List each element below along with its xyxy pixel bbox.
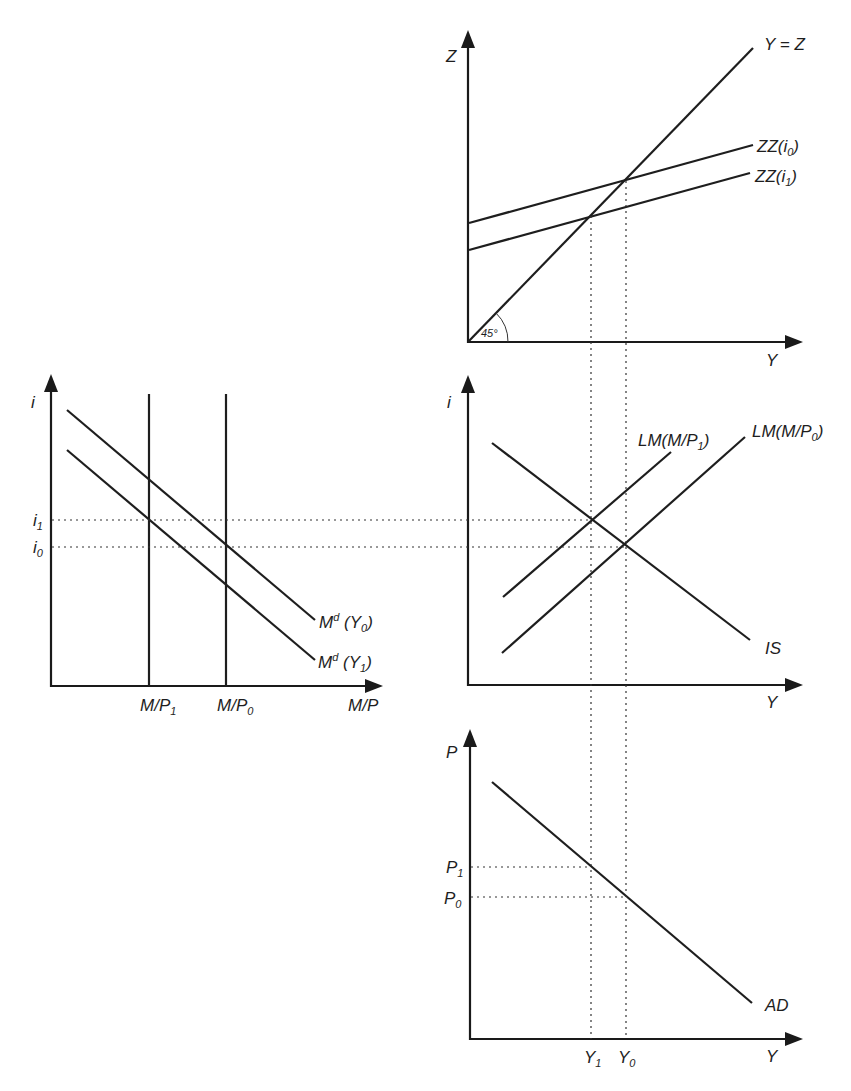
panel-aggregate-demand: P Y P1 P0 Y1 Y0 AD [444, 729, 803, 1069]
y-axis-bottom-arrow-icon [785, 1032, 803, 1046]
line-lm-p0 [502, 437, 745, 653]
lm-p0-label: LM(M/P0) [752, 422, 823, 443]
y-axis-middle-arrow-icon [785, 678, 803, 692]
line-ad [492, 782, 752, 1003]
mp0-label: M/P0 [217, 696, 254, 717]
zz-i1-label: ZZ(i1) [754, 167, 797, 188]
y-axis-top-label: Y [766, 351, 779, 370]
i0-label: i0 [33, 538, 44, 559]
i-axis-left-label: i [31, 393, 36, 412]
panel-money-market: i M/P i1 i0 M/P1 M/P0 Md (Y0) Md (Y1) [31, 374, 383, 717]
zz-i0-label: ZZ(i0) [756, 137, 799, 158]
i-axis-left-arrow-icon [44, 374, 58, 392]
i-axis-middle-arrow-icon [461, 375, 475, 393]
angle-arc [496, 313, 508, 342]
md-y0-label: Md (Y0) [319, 611, 373, 634]
z-axis-arrow-icon [461, 30, 475, 48]
y-axis-top-arrow-icon [785, 335, 803, 349]
mp1-label: M/P1 [140, 696, 176, 717]
is-lm-ad-diagram: Z Y Y = Z ZZ(i0) ZZ(i1) 45° i M/P i1 i0 … [0, 0, 851, 1091]
y1-label: Y1 [584, 1048, 601, 1069]
p-axis-arrow-icon [463, 729, 477, 747]
i1-label: i1 [33, 511, 43, 532]
p1-label: P1 [446, 858, 463, 879]
mp-axis-label: M/P [348, 696, 379, 715]
y-axis-middle-label: Y [766, 693, 779, 712]
lm-p1-label: LM(M/P1) [638, 431, 709, 452]
p-axis-label: P [446, 743, 458, 762]
md-y1-label: Md (Y1) [318, 651, 372, 674]
is-label: IS [765, 639, 782, 658]
panel-goods-market: Z Y Y = Z ZZ(i0) ZZ(i1) 45° [445, 30, 805, 370]
guide-lines [52, 181, 626, 1039]
angle-label: 45° [481, 327, 498, 339]
line-is [492, 443, 750, 640]
line-md-y0 [67, 410, 315, 620]
z-axis-label: Z [445, 47, 457, 66]
yz-label: Y = Z [764, 35, 805, 54]
p0-label: P0 [444, 889, 462, 910]
panel-is-lm: i Y LM(M/P1) LM(M/P0) IS [447, 375, 823, 712]
line-md-y1 [67, 450, 315, 660]
mp-axis-arrow-icon [365, 679, 383, 693]
y0-label: Y0 [618, 1048, 636, 1069]
ad-label: AD [764, 996, 789, 1015]
i-axis-middle-label: i [447, 393, 452, 412]
y-axis-bottom-label: Y [766, 1047, 779, 1066]
line-y-equals-z [468, 48, 753, 342]
